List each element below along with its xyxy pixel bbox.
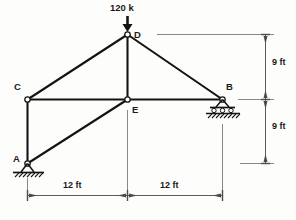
support-b-rollers [212, 108, 233, 112]
support-a-leg-left [21, 164, 28, 173]
joint-label-E: E [132, 105, 138, 115]
vdim-arrow-mid-down [264, 101, 268, 109]
joint-label-A: A [13, 154, 20, 164]
truss-drawing-canvas [0, 0, 296, 220]
dimension-label-span-right: 12 ft [160, 181, 179, 190]
member-A-E [28, 100, 128, 164]
vdim-arrow-top-down [264, 36, 268, 44]
support-a-leg-right [28, 164, 35, 173]
joint-marker-C [25, 97, 30, 102]
member-C-D [28, 35, 128, 100]
joint-label-D: D [134, 30, 141, 40]
load-arrow-head [123, 24, 133, 32]
joint-marker-D [125, 32, 130, 37]
support-a-pin [13, 164, 44, 178]
vdim-arrow-bottom-up [264, 154, 268, 162]
support-b-leg-right [223, 100, 230, 108]
roller-2 [220, 108, 224, 112]
joint-label-C: C [14, 82, 21, 92]
roller-3 [229, 108, 233, 112]
member-D-B [128, 35, 223, 100]
load-arrow [123, 16, 133, 32]
hdim-arrow-center-right [129, 194, 137, 198]
hdim-arrow-right-left [213, 194, 221, 198]
roller-1 [212, 108, 216, 112]
dimension-label-height-upper: 9 ft [272, 58, 286, 67]
dimension-label-span-left: 12 ft [63, 181, 82, 190]
hdim-arrow-left-right [29, 194, 37, 198]
vertical-dimension-line [261, 35, 270, 164]
hdim-arrow-center-left [118, 194, 126, 198]
dimension-label-height-lower: 9 ft [272, 122, 286, 131]
support-b-hatching [208, 114, 240, 118]
joint-marker-E [125, 97, 130, 102]
horizontal-dimension-line [28, 190, 223, 201]
support-b-leg-left [216, 100, 223, 108]
joint-label-B: B [226, 82, 233, 92]
load-label: 120 k [110, 3, 134, 13]
truss-diagram: 120 k D C E B A 9 ft 9 ft 12 ft 12 ft [0, 0, 296, 220]
vdim-arrow-mid-up [264, 90, 268, 98]
support-a-hatching [15, 173, 43, 177]
